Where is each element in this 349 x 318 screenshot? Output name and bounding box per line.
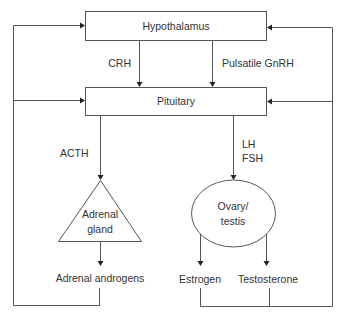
gnrh-edge: Pulsatile GnRH (210, 41, 294, 87)
acth-label: ACTH (60, 147, 89, 159)
arrow-left-icon (267, 99, 272, 105)
gonad-label-line1: Ovary/ (218, 200, 249, 212)
crh-edge: CRH (108, 41, 142, 87)
arrow-down-icon (98, 175, 104, 180)
crh-label: CRH (108, 57, 131, 69)
gonad-label-line2: testis (221, 215, 246, 227)
adrenal-label-line1: Adrenal (82, 208, 118, 220)
left-feedback-loop (14, 23, 100, 306)
hypothalamus-node: Hypothalamus (86, 12, 267, 41)
arrow-left-icon (267, 25, 272, 31)
pituitary-node: Pituitary (86, 88, 267, 116)
estrogen-label: Estrogen (179, 273, 221, 285)
pituitary-label: Pituitary (157, 95, 196, 107)
arrow-down-icon (264, 261, 270, 266)
estrogen-edge (198, 234, 204, 266)
arrow-down-icon (198, 261, 204, 266)
adrenal-androgens-label: Adrenal androgens (56, 272, 145, 284)
testosterone-edge (264, 234, 270, 266)
hypothalamus-label: Hypothalamus (142, 20, 209, 32)
adrenal-label-line2: gland (87, 223, 113, 235)
arrow-right-icon (80, 98, 85, 104)
arrow-right-icon (80, 23, 85, 29)
fsh-label: FSH (242, 152, 263, 164)
adrenal-androgens-edge (98, 242, 104, 266)
arrow-down-icon (210, 82, 216, 87)
arrow-down-icon (231, 175, 237, 180)
lh-label: LH (242, 138, 255, 150)
lh-fsh-edge: LH FSH (231, 116, 264, 180)
adrenal-gland-node: Adrenal gland (59, 181, 142, 242)
endocrine-axis-diagram: Hypothalamus Pituitary CRH Pulsatile GnR… (0, 0, 349, 318)
ovary-testis-node: Ovary/ testis (192, 180, 276, 247)
acth-edge: ACTH (60, 116, 104, 180)
gnrh-label: Pulsatile GnRH (222, 57, 294, 69)
arrow-down-icon (98, 261, 104, 266)
testosterone-label: Testosterone (238, 273, 298, 285)
arrow-down-icon (137, 82, 143, 87)
